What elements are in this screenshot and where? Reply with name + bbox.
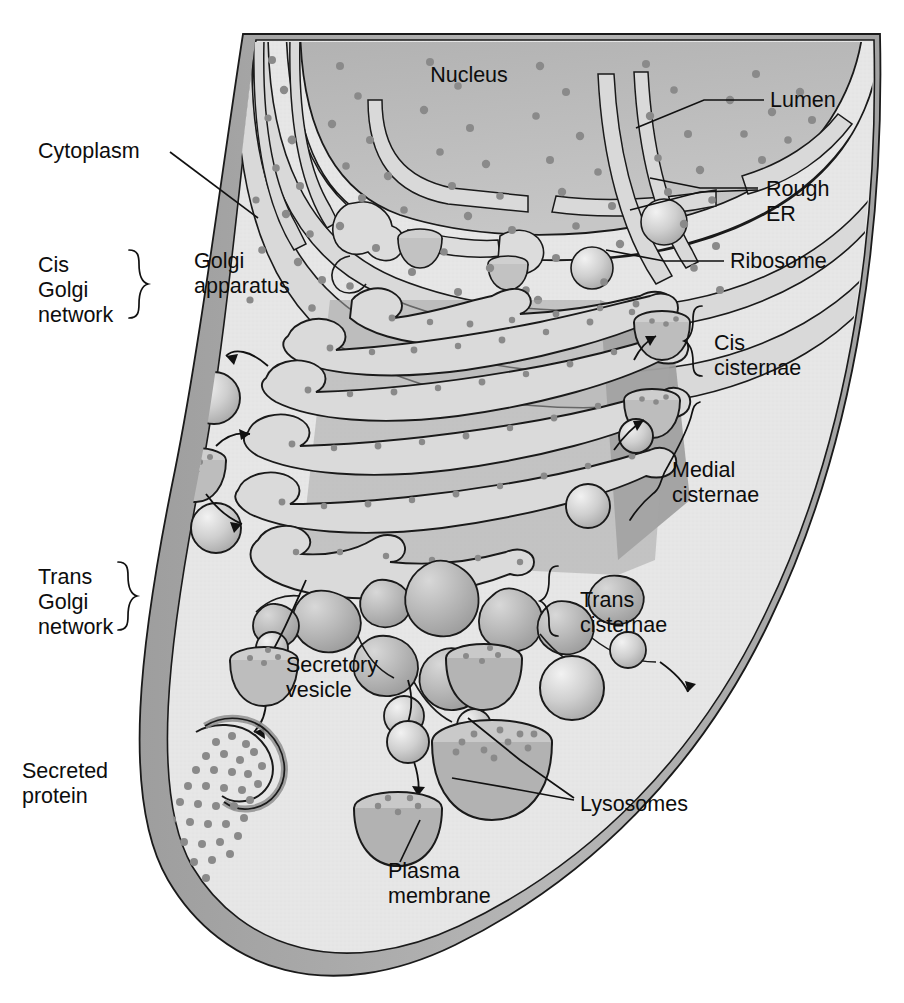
transport-vesicle-center [387, 721, 429, 763]
label-golgi-apparatus-1: Golgi [194, 249, 244, 273]
label-medial-cisternae-1: Medial [672, 458, 735, 482]
label-trans-cisternae-2: cisternae [580, 613, 667, 637]
label-ribosome: Ribosome [730, 249, 827, 273]
label-trans-cisternae-1: Trans [580, 588, 634, 612]
label-plasma-membrane-2: membrane [388, 884, 491, 908]
label-plasma-membrane-1: Plasma [388, 859, 460, 883]
brace-cis-golgi-network [129, 250, 148, 318]
figure-canvas: Cytoplasm Nucleus Lumen Rough ER Ribosom… [0, 0, 904, 1003]
label-lumen: Lumen [770, 88, 836, 112]
label-cis-cisternae-1: Cis [714, 331, 745, 355]
label-cis-cisternae-2: cisternae [714, 356, 801, 380]
label-cytoplasm: Cytoplasm [38, 139, 140, 163]
label-cis-golgi-network-1: Cis [38, 253, 69, 277]
label-golgi-apparatus-2: apparatus [194, 274, 290, 298]
label-trans-golgi-network-2: Golgi [38, 590, 88, 614]
label-rough-er-2: ER [766, 202, 796, 226]
label-secreted-protein-1: Secreted [22, 759, 108, 783]
label-trans-golgi-network-group: Trans Golgi network [38, 562, 137, 639]
label-cis-golgi-network-group: Cis Golgi network [38, 250, 148, 327]
label-cis-golgi-network-2: Golgi [38, 278, 88, 302]
label-secretory-vesicle-1: Secretory [286, 653, 378, 677]
label-nucleus: Nucleus [430, 63, 508, 87]
label-secreted-protein-2: protein [22, 784, 88, 808]
label-rough-er-1: Rough [766, 177, 829, 201]
label-secretory-vesicle-2: vesicle [286, 678, 352, 702]
label-trans-golgi-network-1: Trans [38, 565, 92, 589]
cell-diagram-svg: Cytoplasm Nucleus Lumen Rough ER Ribosom… [0, 0, 904, 1003]
label-cis-golgi-network-3: network [38, 303, 114, 327]
vesicle-right [540, 656, 604, 720]
label-medial-cisternae-2: cisternae [672, 483, 759, 507]
brace-trans-golgi-network [118, 562, 137, 630]
label-trans-golgi-network-3: network [38, 615, 114, 639]
label-lysosomes: Lysosomes [580, 792, 688, 816]
